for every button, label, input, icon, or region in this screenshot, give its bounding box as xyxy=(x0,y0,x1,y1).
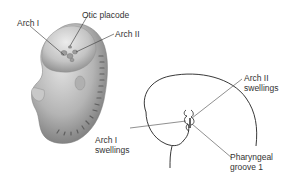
label-otic-placode: Otic placode xyxy=(82,11,129,21)
limb-bud xyxy=(75,76,85,90)
label-arch-2: Arch II xyxy=(115,30,140,40)
label-arch-1-swellings: Arch I swellings xyxy=(95,136,130,155)
label-arch-1-swellings-line2: swellings xyxy=(95,146,130,156)
head-outline xyxy=(144,74,256,146)
label-arch-2-swellings-line2: swellings xyxy=(244,84,279,94)
embryo-rendering xyxy=(30,15,114,143)
label-pharyngeal-groove-1: Pharyngeal groove 1 xyxy=(230,153,273,172)
label-pharyngeal-groove-line2: groove 1 xyxy=(230,163,273,173)
jaw-outline xyxy=(146,112,189,146)
label-arch-1: Arch I xyxy=(17,19,39,29)
label-arch-2-swellings: Arch II swellings xyxy=(244,74,279,93)
neck-outline xyxy=(170,146,172,168)
